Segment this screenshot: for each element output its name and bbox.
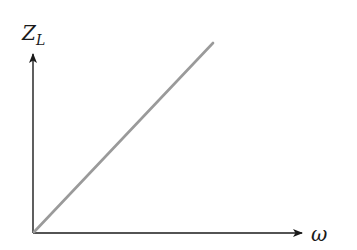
y-axis-label: ZL — [21, 21, 45, 48]
x-axis-label: ω — [311, 222, 327, 246]
reactance-vs-frequency-plot: ZL ω — [0, 0, 357, 250]
y-axis-label-main: Z — [21, 21, 37, 45]
y-axis-label-sub: L — [35, 32, 45, 48]
reactance-line — [34, 43, 213, 232]
